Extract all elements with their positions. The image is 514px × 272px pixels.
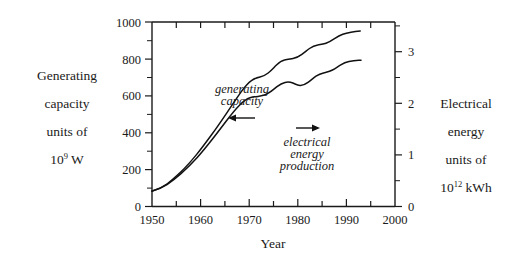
y-axis-left-labels: 1000 800 600 400 200 0 [116,16,141,215]
left-description-line3: units of [47,124,88,139]
x-tick-label: 1970 [237,213,262,227]
arrow-right-icon [296,125,320,132]
y-left-tick-label: 800 [122,53,141,67]
right-description-line3: units of [446,152,487,167]
y-axis-right-ticks [395,26,402,207]
y-axis-left-ticks [145,22,152,207]
left-units-base: 10 [50,152,64,167]
left-description-line2: capacity [45,96,90,111]
right-description-line1: Electrical [440,96,492,111]
right-units-suffix: kWh [462,180,492,195]
x-tick-label: 1980 [285,213,310,227]
x-tick-label: 1990 [334,213,359,227]
top-axis-ticks [176,22,370,28]
x-axis-ticks [176,199,370,207]
y-right-tick-label: 1 [408,148,414,162]
right-axis-description: Electrical energy units of 1012 kWh [440,96,492,195]
x-tick-label: 1950 [140,213,165,227]
right-units-base: 10 [440,180,454,195]
x-tick-label: 1960 [188,213,213,227]
left-axis-description: Generating capacity units of 109 W [37,68,97,167]
generating-capacity-annotation-line2: capacity [221,94,264,108]
left-units-suffix: W [68,152,84,167]
generating-capacity-annotation: generating capacity [215,82,269,122]
generating-capacity-chart: 1000 800 600 400 200 0 3 2 1 0 1950 1960… [0,0,514,272]
left-description-units: 109 W [50,151,84,167]
right-units-exponent: 12 [454,179,463,189]
arrow-left-icon [228,115,255,122]
right-description-line2: energy [448,124,485,139]
y-right-tick-label: 3 [408,45,414,59]
y-axis-right-labels: 3 2 1 0 [408,45,414,214]
right-description-units: 1012 kWh [440,179,492,195]
electrical-energy-production-annotation: electrical energy production [279,125,334,174]
plot-frame [152,22,395,207]
y-right-tick-label: 2 [408,97,414,111]
left-description-line1: Generating [37,68,97,83]
x-tick-label: 2000 [383,213,408,227]
y-left-tick-label: 1000 [116,16,141,30]
y-left-tick-label: 400 [122,126,141,140]
y-right-tick-label: 0 [408,200,414,214]
y-left-tick-label: 200 [122,163,141,177]
y-left-tick-label: 600 [122,89,141,103]
x-axis-labels: 1950 1960 1970 1980 1990 2000 [140,213,408,227]
electrical-energy-annotation-line3: production [279,159,334,173]
x-axis-title: Year [261,236,286,251]
